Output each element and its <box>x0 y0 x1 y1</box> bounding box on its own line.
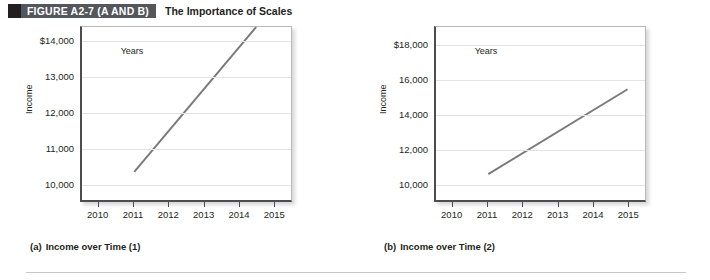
gridline <box>82 41 291 42</box>
x-tick-mark <box>593 202 594 207</box>
y-tick-label: 12,000 <box>45 107 74 118</box>
chart-a-y-ticks: 10,00011,00012,00013,000$14,000 <box>26 26 74 202</box>
y-tick-label: 10,000 <box>399 179 428 190</box>
chart-a-x-axis-title: Years <box>121 46 144 56</box>
x-tick-mark <box>522 202 523 207</box>
chart-b-caption-text: Income over Time (2) <box>400 241 495 252</box>
chart-b-x-ticks: 201020112012201320142015 <box>434 202 646 232</box>
x-tick-mark <box>274 202 275 207</box>
x-tick-label: 2015 <box>618 209 639 220</box>
chart-b-x-axis-title: Years <box>475 46 498 56</box>
chart-b-caption-index: (b) <box>384 241 396 252</box>
figure-tag-banner: FIGURE A2-7 (A AND B) <box>8 4 156 18</box>
x-tick-mark <box>558 202 559 207</box>
gridline <box>436 45 645 46</box>
figure-tag-swatch-icon <box>8 4 21 18</box>
x-tick-label: 2011 <box>123 209 143 220</box>
series-line <box>488 89 627 174</box>
x-tick-mark <box>98 202 99 207</box>
gridline <box>82 77 291 78</box>
x-tick-label: 2012 <box>158 209 179 220</box>
figure-title: The Importance of Scales <box>165 4 292 18</box>
chart-a-plot-area <box>80 26 292 202</box>
x-tick-label: 2014 <box>228 209 249 220</box>
chart-b-caption: (b)Income over Time (2) <box>384 241 495 252</box>
gridline <box>82 149 291 150</box>
x-tick-mark <box>239 202 240 207</box>
footer-divider <box>26 272 686 273</box>
chart-b-line-series <box>436 27 645 200</box>
x-tick-label: 2010 <box>441 209 462 220</box>
gridline <box>436 80 645 81</box>
gridline <box>82 113 291 114</box>
y-tick-label: 12,000 <box>399 144 428 155</box>
x-tick-mark <box>487 202 488 207</box>
gridline <box>82 185 291 186</box>
y-tick-label: 13,000 <box>45 71 74 82</box>
x-tick-mark <box>628 202 629 207</box>
y-tick-label: 11,000 <box>46 143 74 154</box>
chart-b-plot-area <box>434 26 646 202</box>
y-tick-label: $14,000 <box>40 35 74 46</box>
chart-a-x-ticks: 201020112012201320142015 <box>80 202 292 232</box>
figure-number-label: FIGURE A2-7 (A AND B) <box>27 4 149 18</box>
x-tick-label: 2013 <box>547 209 568 220</box>
x-tick-label: 2013 <box>193 209 214 220</box>
figure-page: FIGURE A2-7 (A AND B) The Importance of … <box>0 0 710 280</box>
gridline <box>436 185 645 186</box>
chart-a-caption-text: Income over Time (1) <box>46 241 141 252</box>
y-tick-label: 16,000 <box>399 73 428 84</box>
x-tick-label: 2010 <box>87 209 108 220</box>
x-tick-label: 2012 <box>512 209 533 220</box>
y-tick-label: $18,000 <box>394 38 428 49</box>
y-tick-label: 14,000 <box>399 109 428 120</box>
series-line <box>134 27 256 172</box>
chart-a-caption-index: (a) <box>30 241 42 252</box>
x-tick-label: 2015 <box>264 209 285 220</box>
y-tick-label: 10,000 <box>45 179 74 190</box>
x-tick-mark <box>452 202 453 207</box>
x-tick-mark <box>204 202 205 207</box>
x-tick-mark <box>168 202 169 207</box>
chart-a-caption: (a)Income over Time (1) <box>30 241 140 252</box>
gridline <box>436 150 645 151</box>
x-tick-label: 2014 <box>582 209 603 220</box>
x-tick-mark <box>133 202 134 207</box>
gridline <box>436 115 645 116</box>
figure-header: FIGURE A2-7 (A AND B) The Importance of … <box>8 4 292 18</box>
x-tick-label: 2011 <box>477 209 497 220</box>
chart-b-y-ticks: 10,00012,00014,00016,000$18,000 <box>380 26 428 202</box>
